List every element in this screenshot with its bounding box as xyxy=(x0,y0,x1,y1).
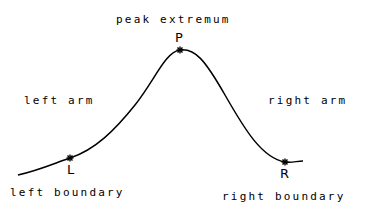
peak-diagram: peak extremum P left arm right arm L lef… xyxy=(0,0,373,212)
marker-P xyxy=(177,47,184,54)
left-arm-label: left arm xyxy=(24,94,95,107)
point-letter-P: P xyxy=(175,30,183,45)
point-letter-L: L xyxy=(67,162,75,177)
marker-L xyxy=(67,155,74,162)
point-letter-R: R xyxy=(280,166,289,181)
peak-extremum-label: peak extremum xyxy=(116,13,231,26)
right-arm-label: right arm xyxy=(268,94,347,107)
marker-R xyxy=(282,159,289,166)
right-boundary-label: right boundary xyxy=(222,190,346,203)
peak-curve xyxy=(18,50,303,175)
left-boundary-label: left boundary xyxy=(10,186,125,199)
